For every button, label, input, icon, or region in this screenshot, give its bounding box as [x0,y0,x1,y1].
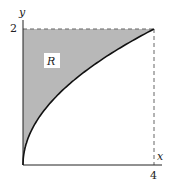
x-tick-label: 4 [150,169,157,182]
y-axis-label: y [18,6,26,19]
diagram: R y 2 x 4 [0,0,173,185]
y-tick-label: 2 [10,22,17,35]
shaded-region-r [23,29,154,165]
region-label: R [46,55,55,68]
region-plot: R y 2 x 4 [0,0,173,185]
x-axis-label: x [157,150,164,163]
